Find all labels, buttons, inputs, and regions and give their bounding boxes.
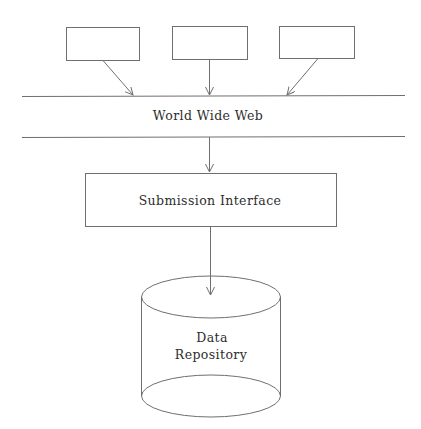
arrow-client1-to-web [103,61,133,96]
client-box-2 [173,27,248,60]
repository-label-line2: Repository [175,347,248,362]
client-box-3 [280,27,355,59]
web-label: World Wide Web [153,108,263,123]
arrow-client3-to-web [287,59,318,96]
repository-label-line1: Data [196,330,228,345]
submission-interface-box: Submission Interface [86,174,337,227]
architecture-diagram: World Wide Web Submission Interface Data… [0,0,421,429]
web-bottom-line [22,137,405,138]
cylinder-bottom-ellipse [142,375,281,417]
world-wide-web-band: World Wide Web [22,96,405,138]
data-repository-cylinder: Data Repository [142,276,281,417]
interface-label: Submission Interface [139,193,282,208]
web-top-line [22,96,405,97]
client-box-1 [67,28,140,61]
